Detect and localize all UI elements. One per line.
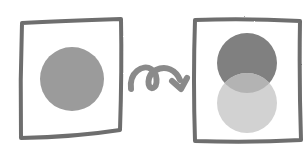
before-frame [21, 19, 122, 138]
before-circle [40, 47, 104, 111]
diagram-canvas: Hand-drawn sketch: a frame with one circ… [0, 0, 308, 154]
after-frame [194, 19, 301, 142]
transform-arrow [131, 68, 187, 89]
